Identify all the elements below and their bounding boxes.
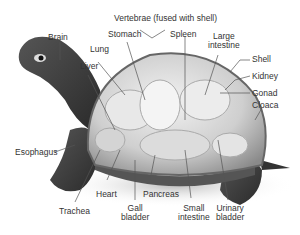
- label-spleen: Spleen: [170, 30, 196, 39]
- label-heart: Heart: [96, 190, 117, 199]
- label-vertebrae: Vertebrae (fused with shell): [114, 14, 217, 23]
- label-esophagus: Esophagus: [15, 148, 58, 157]
- label-cloaca: Cloaca: [252, 101, 278, 110]
- label-gonad: Gonad: [252, 89, 278, 98]
- label-small-intestine: Smallintestine: [178, 204, 210, 222]
- label-gall-bladder: Gallbladder: [121, 204, 149, 222]
- label-small-intestine-line2: intestine: [178, 212, 210, 222]
- label-gall-bladder-line2: bladder: [121, 212, 149, 222]
- turtle-anatomy-diagram: Brain Vertebrae (fused with shell) Stoma…: [0, 0, 300, 235]
- label-urinary-bladder-line2: bladder: [216, 212, 244, 222]
- label-liver: Liver: [80, 62, 98, 71]
- label-kidney: Kidney: [252, 72, 278, 81]
- label-brain: Brain: [48, 33, 68, 42]
- label-urinary-bladder: Urinarybladder: [216, 204, 244, 222]
- label-shell: Shell: [252, 55, 271, 64]
- label-pancreas: Pancreas: [143, 190, 179, 199]
- label-trachea: Trachea: [59, 207, 90, 216]
- label-lung: Lung: [90, 45, 109, 54]
- label-large-intestine-line2: intestine: [208, 40, 240, 50]
- label-stomach: Stomach: [108, 30, 142, 39]
- turtle-illustration: [0, 0, 300, 235]
- label-large-intestine: Largeintestine: [208, 32, 240, 50]
